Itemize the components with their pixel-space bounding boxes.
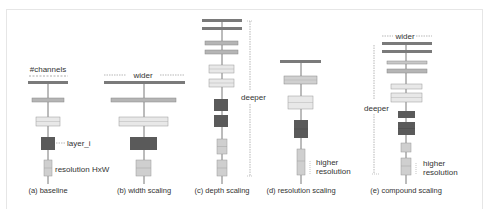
layer-bar-top: [28, 81, 68, 84]
model-scaling-diagram: #channels layer_i resolution HxW (a) bas…: [0, 0, 489, 209]
panel-resolution-scaling: higher resolution (d) resolution scaling: [266, 60, 350, 195]
resolution-label: resolution HxW: [55, 165, 110, 174]
channels-label: #channels: [30, 65, 66, 74]
resolution-label: resolution: [423, 168, 458, 177]
caption-resolution-scaling: (d) resolution scaling: [266, 186, 335, 195]
wider-label: wider: [394, 32, 414, 41]
deeper-label: deeper: [241, 93, 266, 102]
layer-i-label: layer_i: [67, 139, 91, 148]
panel-depth-scaling: deeper (c) depth scaling: [194, 19, 266, 195]
caption-baseline: (a) baseline: [28, 186, 67, 195]
resolution-label: resolution: [316, 167, 351, 176]
higher-label: higher: [316, 158, 339, 167]
layer-i-box: [41, 137, 55, 150]
caption-depth-scaling: (c) depth scaling: [194, 186, 249, 195]
layer-bar-2: [32, 98, 64, 102]
panel-compound-scaling: wider deeper higher resolution (e) compo…: [364, 32, 458, 195]
wider-label: wider: [132, 71, 152, 80]
higher-label: higher: [423, 159, 446, 168]
deeper-label: deeper: [364, 104, 389, 113]
caption-compound-scaling: (e) compound scaling: [370, 186, 442, 195]
panel-width-scaling: wider (b) width scaling: [104, 71, 185, 195]
caption-width-scaling: (b) width scaling: [117, 186, 171, 195]
panel-baseline: #channels layer_i resolution HxW (a) bas…: [28, 65, 110, 195]
